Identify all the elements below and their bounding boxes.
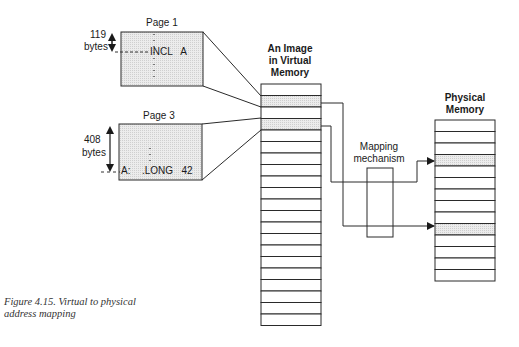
physical-memory: Physical Memory	[435, 92, 495, 281]
mapping-mechanism: Mapping mechanism	[353, 141, 404, 237]
offset-value: 408	[84, 134, 101, 145]
memory-cell	[261, 245, 321, 257]
arrow-down-icon	[106, 164, 114, 172]
memory-cell	[435, 212, 495, 224]
mapping-connectors	[321, 103, 434, 226]
figure-caption: Figure 4.15. Virtual to physical address…	[4, 296, 144, 320]
memory-cell	[261, 130, 321, 142]
page-1-box: Page 1 INCL A	[115, 17, 203, 86]
memory-cell	[435, 235, 495, 247]
virtual-memory: An Image in Virtual Memory	[261, 43, 321, 326]
memory-cell	[435, 247, 495, 259]
memory-cell	[261, 234, 321, 246]
memory-cell	[261, 280, 321, 292]
virtual-title-2: in Virtual	[269, 55, 312, 66]
memory-cell	[435, 166, 495, 178]
page-3-offset: 408 bytes	[82, 126, 120, 172]
memory-cell	[261, 176, 321, 188]
memory-cell	[261, 199, 321, 211]
projection-lines	[202, 32, 261, 180]
page-1-instruction: INCL A	[150, 46, 187, 57]
page-1-offset: 119 bytes	[84, 29, 116, 52]
memory-cell	[261, 188, 321, 200]
memory-cell	[435, 120, 495, 132]
memory-cell	[435, 178, 495, 190]
virtual-title-3: Memory	[271, 67, 310, 78]
arrow-down-icon	[108, 44, 116, 52]
offset-unit: bytes	[84, 41, 108, 52]
memory-cell	[435, 155, 495, 167]
memory-cell	[261, 119, 321, 131]
memory-cell	[435, 132, 495, 144]
memory-cell	[261, 142, 321, 154]
arrow-up-icon	[106, 126, 114, 134]
memory-cell	[261, 268, 321, 280]
memory-cell	[435, 143, 495, 155]
memory-cell	[435, 189, 495, 201]
memory-cell	[261, 211, 321, 223]
page-3-title: Page 3	[143, 110, 175, 121]
memory-cell	[261, 84, 321, 96]
memory-cell	[261, 314, 321, 326]
memory-cell	[261, 107, 321, 119]
memory-cell	[435, 201, 495, 213]
memory-cell	[261, 96, 321, 108]
physical-title-2: Memory	[446, 104, 485, 115]
memory-cell	[435, 258, 495, 270]
memory-cell	[261, 303, 321, 315]
memory-cell	[261, 222, 321, 234]
offset-unit: bytes	[82, 147, 106, 158]
caption-line-1: Figure 4.15. Virtual to physical	[4, 296, 144, 308]
physical-title-1: Physical	[445, 92, 486, 103]
memory-cell	[261, 153, 321, 165]
memory-cell	[261, 291, 321, 303]
virtual-title-1: An Image	[267, 43, 312, 54]
page-3-instruction: .LONG 42	[142, 165, 193, 176]
memory-cell	[261, 257, 321, 269]
arrow-up-icon	[108, 33, 116, 41]
memory-cell	[261, 165, 321, 177]
page-3-label: A:	[121, 165, 130, 176]
memory-cell	[435, 224, 495, 236]
memory-cell	[435, 270, 495, 282]
mapping-label-2: mechanism	[353, 153, 404, 164]
caption-line-2: address mapping	[4, 308, 144, 320]
mapping-diagram: Page 1 INCL A 119 bytes Page 3 A: .LONG …	[0, 0, 519, 347]
offset-value: 119	[90, 29, 106, 40]
mapping-label-1: Mapping	[360, 141, 398, 152]
page-3-box: Page 3 A: .LONG 42	[119, 110, 202, 180]
page-1-title: Page 1	[146, 17, 178, 28]
